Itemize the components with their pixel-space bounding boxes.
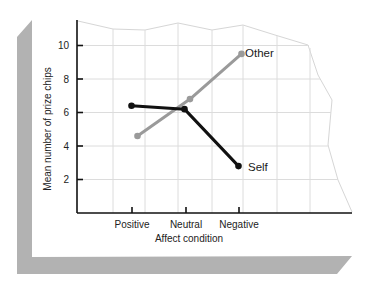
x-tick-label: Neutral bbox=[170, 219, 202, 230]
series-line-other bbox=[138, 54, 242, 136]
chart: 2 4 6 8 10 Positive Neutral Negative Aff… bbox=[0, 0, 373, 290]
y-tick-label: 4 bbox=[63, 141, 69, 152]
y-axis-title: Mean number of prize chips bbox=[42, 67, 53, 190]
y-tick-label: 10 bbox=[58, 40, 70, 51]
data-point-self-negative bbox=[235, 163, 242, 170]
data-point-self-neutral bbox=[181, 106, 188, 113]
grid bbox=[77, 23, 338, 213]
x-axis-title: Affect condition bbox=[155, 233, 223, 244]
data-point-self-positive bbox=[128, 103, 135, 110]
x-tick-label: Positive bbox=[114, 219, 149, 230]
x-tick-label: Negative bbox=[219, 219, 259, 230]
y-tick-label: 6 bbox=[63, 107, 69, 118]
y-ticks: 2 4 6 8 10 bbox=[58, 40, 83, 185]
torn-paper-edge bbox=[78, 21, 352, 212]
y-tick-label: 8 bbox=[63, 74, 69, 85]
data-point-other-neutral bbox=[187, 96, 194, 103]
series-line-self bbox=[132, 106, 239, 166]
data-point-other-positive bbox=[134, 133, 141, 140]
x-ticks: Positive Neutral Negative bbox=[114, 207, 259, 230]
y-tick-label: 2 bbox=[63, 174, 69, 185]
series-label-self: Self bbox=[248, 161, 269, 173]
series-label-other: Other bbox=[245, 47, 274, 59]
data-point-other-negative bbox=[238, 51, 245, 58]
series-layer: OtherSelf bbox=[128, 47, 274, 173]
